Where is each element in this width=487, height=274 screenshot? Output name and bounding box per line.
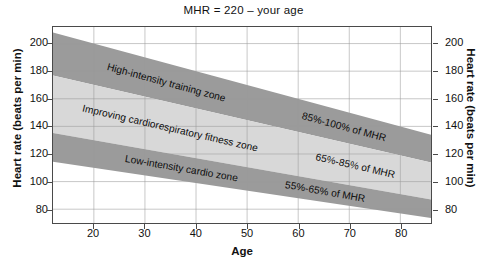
y-tick-label-left: 180 — [12, 65, 48, 76]
x-axis-tick — [401, 224, 402, 229]
y-tick-label-right: 160 — [445, 93, 463, 104]
x-tick-label: 60 — [292, 228, 304, 239]
y-axis-tick-right — [433, 210, 438, 211]
y-axis-tick-left — [47, 99, 52, 100]
chart-title: MHR = 220 – your age — [0, 4, 487, 16]
y-axis-tick-right — [433, 43, 438, 44]
y-axis-tick-left — [47, 210, 52, 211]
y-tick-label-left: 100 — [12, 176, 48, 187]
x-axis-tick — [144, 224, 145, 229]
x-tick-label: 30 — [138, 228, 150, 239]
x-axis-tick — [93, 224, 94, 229]
y-tick-label-left: 160 — [12, 93, 48, 104]
band-label: Improving cardiorespiratory fitness zone — [81, 103, 259, 154]
x-tick-label: 20 — [87, 228, 99, 239]
x-axis-tick — [350, 224, 351, 229]
x-tick-label: 70 — [344, 228, 356, 239]
x-axis-tick — [299, 224, 300, 229]
plot-area: High-intensity training zoneImproving ca… — [52, 26, 432, 224]
band-percent-label: 65%-85% of MHR — [315, 151, 397, 180]
y-axis-tick-right — [433, 154, 438, 155]
y-tick-label-left: 80 — [12, 204, 48, 215]
y-tick-label-right: 100 — [445, 176, 463, 187]
y-tick-label-right: 200 — [445, 37, 463, 48]
y-axis-tick-left — [47, 71, 52, 72]
band-percent-label: 85%-100% of MHR — [301, 110, 388, 143]
plot-inner: High-intensity training zoneImproving ca… — [53, 27, 431, 223]
x-tick-label: 40 — [190, 228, 202, 239]
x-axis-ticks: 20304050607080 — [52, 228, 432, 244]
x-tick-label: 50 — [241, 228, 253, 239]
y-axis-tick-right — [433, 126, 438, 127]
y-axis-tick-left — [47, 126, 52, 127]
band-label: Low-intensity cardio zone — [124, 153, 239, 184]
y-axis-ticks-right: 80100120140160180200 — [437, 26, 471, 224]
y-axis-tick-left — [47, 182, 52, 183]
y-axis-ticks-left: 80100120140160180200 — [12, 26, 48, 224]
y-axis-tick-left — [47, 43, 52, 44]
y-tick-label-left: 120 — [12, 148, 48, 159]
band-percent-label: 55%-65% of MHR — [284, 179, 366, 204]
x-axis-title: Age — [52, 245, 432, 257]
y-tick-label-right: 140 — [445, 120, 463, 131]
x-axis-tick — [247, 224, 248, 229]
y-tick-label-left: 140 — [12, 120, 48, 131]
y-tick-label-right: 180 — [445, 65, 463, 76]
heart-rate-zones-chart: MHR = 220 – your age Heart rate (beats p… — [0, 0, 487, 274]
x-tick-label: 80 — [395, 228, 407, 239]
y-axis-tick-right — [433, 182, 438, 183]
x-axis-tick — [196, 224, 197, 229]
y-axis-tick-left — [47, 154, 52, 155]
y-axis-tick-right — [433, 99, 438, 100]
y-tick-label-right: 120 — [445, 148, 463, 159]
y-axis-tick-right — [433, 71, 438, 72]
band-labels-layer: High-intensity training zoneImproving ca… — [53, 27, 431, 223]
band-label: High-intensity training zone — [106, 61, 227, 104]
y-tick-label-right: 80 — [445, 204, 457, 215]
y-tick-label-left: 200 — [12, 37, 48, 48]
